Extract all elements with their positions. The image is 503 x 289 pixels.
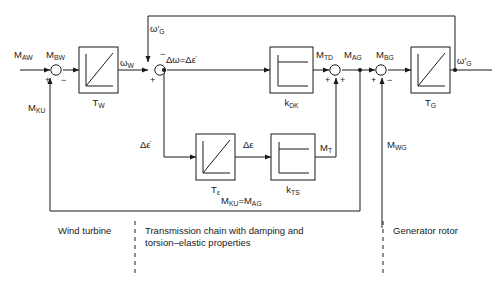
sign-sum3-left: + [325,76,330,85]
block-label-tg: TG [411,97,450,108]
label-omega-g-out: ω′G [457,56,472,66]
block-label-tw: TW [79,97,118,108]
sign-sum2-top: − [160,50,165,59]
label-m-td: MTD [316,50,333,60]
label-omega-w: ωW [120,58,134,68]
sign-sum3-bottom: + [340,76,345,85]
node-m-ku-tap [358,68,362,72]
label-m-bg: MBG [376,50,394,60]
sign-sum4-bottom: − [387,76,392,85]
label-m-ku: MKU [28,103,45,113]
summing-junction-4 [376,65,386,75]
node-delta-eps-dot [162,68,166,72]
block-label-teps: Tε [196,184,235,195]
block-diagram: MAW MBW MKU ωW ω′G Δω=Δε̇ MTD MAG MBG ω′… [0,0,503,289]
label-omega-g-feedback: ω′G [150,24,165,34]
label-m-ku-equals-m-ag: MKU=MAG [221,196,262,206]
label-m-wg: MWG [387,140,407,150]
label-delta-eps-dot: Δε̇ [140,140,151,150]
summing-junction-1 [51,65,61,75]
label-delta-eps: Δε [243,140,254,150]
section-caption-generator-rotor: Generator rotor [393,225,493,237]
node-omega-g-tap [453,68,457,72]
sign-sum1-bottom: − [61,76,66,85]
label-delta-omega: Δω=Δε̇ [166,55,196,65]
label-m-ag: MAG [344,50,362,60]
section-caption-transmission-chain: Transmission chain with damping and tors… [145,225,380,249]
block-label-kdk: kDK [270,97,313,108]
summing-junction-3 [330,65,340,75]
label-m-aw: MAW [14,50,33,60]
sign-sum2-left: + [150,76,155,85]
section-caption-wind-turbine: Wind turbine [58,225,133,237]
sign-sum1-left: + [45,76,50,85]
label-m-bw: MBW [46,50,65,60]
sign-sum4-left: + [371,76,376,85]
block-label-kts: kTS [271,184,315,195]
label-m-t: MT [320,143,332,153]
